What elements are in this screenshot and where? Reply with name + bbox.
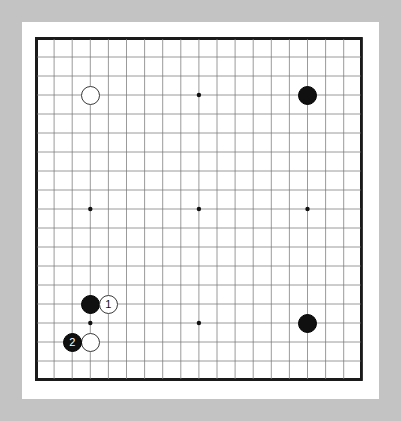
go-board[interactable] [36, 38, 362, 380]
go-diagram-root: 12 [0, 0, 401, 421]
